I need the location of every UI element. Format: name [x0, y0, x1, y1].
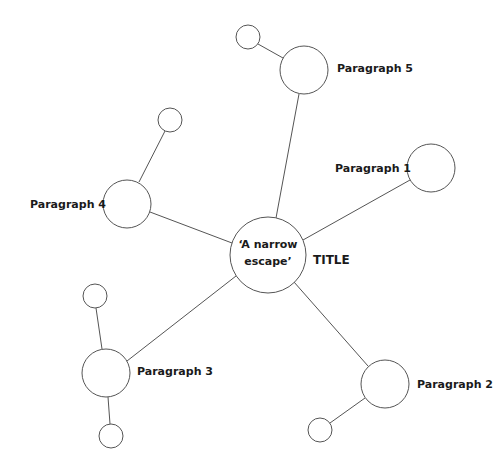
connector-p3-sub-top [96, 308, 102, 349]
node-paragraph-4-sub [158, 108, 182, 132]
center-title-line2: escape’ [230, 253, 306, 270]
connector-p4-sub [139, 131, 165, 182]
label-paragraph-1: Paragraph 1 [335, 162, 411, 175]
connector-p1 [303, 180, 410, 240]
label-paragraph-2: Paragraph 2 [417, 378, 493, 391]
label-paragraph-3: Paragraph 3 [137, 365, 213, 378]
connector-p2 [294, 282, 368, 366]
connector-p5 [276, 94, 299, 218]
connector-p3 [127, 276, 236, 361]
title-label: TITLE [313, 253, 350, 267]
node-paragraph-5 [280, 46, 328, 94]
center-title-line1: ‘A narrow [230, 236, 306, 253]
connector-p2-sub [330, 398, 365, 423]
node-paragraph-3-sub-bottom [99, 424, 123, 448]
node-paragraph-3-sub-top [83, 284, 107, 308]
node-paragraph-2 [361, 360, 409, 408]
label-paragraph-4: Paragraph 4 [30, 198, 106, 211]
label-paragraph-5: Paragraph 5 [337, 62, 413, 75]
center-title: ‘A narrow escape’ [230, 236, 306, 270]
node-paragraph-1 [407, 144, 455, 192]
spider-diagram [0, 0, 504, 467]
connector-p3-sub-bottom [108, 397, 110, 424]
node-paragraph-5-sub [236, 25, 260, 49]
node-paragraph-4 [103, 180, 151, 228]
connector-p5-sub [258, 44, 283, 58]
node-paragraph-3 [82, 349, 130, 397]
connector-p4 [150, 212, 232, 243]
node-paragraph-2-sub [308, 418, 332, 442]
